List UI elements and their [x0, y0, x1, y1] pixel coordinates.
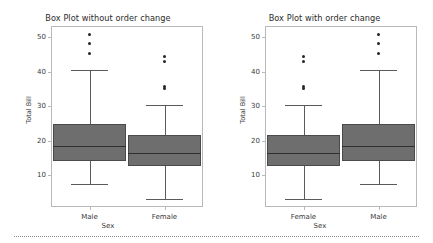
whisker: [379, 70, 380, 125]
x-axis-label: Sex: [0, 222, 216, 230]
x-tick-label-female: Female: [152, 213, 177, 221]
box-male: [53, 124, 126, 161]
median-line: [342, 146, 415, 147]
y-tick: [262, 106, 266, 107]
outlier-point: [302, 55, 305, 58]
y-tick-label: 20: [251, 137, 260, 145]
x-tick: [379, 206, 380, 210]
y-tick-label: 50: [251, 33, 260, 41]
outlier-point: [163, 87, 166, 90]
whisker-cap: [285, 199, 322, 200]
y-tick: [262, 72, 266, 73]
figure-canvas: Box Plot without order change Total Bill…: [0, 0, 433, 243]
whisker-cap: [285, 105, 322, 106]
plot-area: 1020304050FemaleMale: [266, 27, 416, 206]
panel-with-order-change: Box Plot with order change Total Bill Se…: [216, 0, 433, 243]
whisker: [90, 70, 91, 125]
whisker: [304, 166, 305, 199]
outlier-point: [163, 85, 166, 88]
median-line: [267, 153, 340, 154]
median-line: [53, 146, 126, 147]
x-tick-label-female: Female: [291, 213, 316, 221]
whisker: [165, 166, 166, 199]
panel-without-order-change: Box Plot without order change Total Bill…: [0, 0, 216, 243]
panel-title: Box Plot without order change: [0, 13, 216, 23]
box-male: [342, 124, 415, 161]
y-tick-label: 40: [37, 68, 46, 76]
whisker-cap: [146, 199, 183, 200]
y-tick: [262, 37, 266, 38]
x-tick-label-male: Male: [370, 213, 387, 221]
x-tick: [165, 206, 166, 210]
outlier-point: [88, 42, 91, 45]
y-tick: [48, 141, 52, 142]
whisker: [165, 105, 166, 135]
y-tick: [48, 106, 52, 107]
outlier-point: [88, 52, 91, 55]
y-tick-label: 30: [251, 102, 260, 110]
whisker: [379, 161, 380, 183]
outlier-point: [377, 52, 380, 55]
bottom-dotted-separator: [14, 236, 419, 237]
whisker-cap: [71, 184, 108, 185]
outlier-point: [377, 33, 380, 36]
y-tick-label: 20: [37, 137, 46, 145]
whisker: [90, 161, 91, 183]
outlier-point: [163, 60, 166, 63]
x-tick-label-male: Male: [81, 213, 98, 221]
outlier-point: [302, 87, 305, 90]
axes-frame: 1020304050MaleFemale: [51, 26, 203, 207]
y-tick: [262, 141, 266, 142]
y-tick: [262, 175, 266, 176]
x-tick: [304, 206, 305, 210]
box-female: [267, 135, 340, 165]
outlier-point: [88, 33, 91, 36]
outlier-point: [302, 60, 305, 63]
y-axis-label: Total Bill: [239, 96, 247, 124]
outlier-point: [377, 42, 380, 45]
axes-frame: 1020304050FemaleMale: [265, 26, 417, 207]
y-tick-label: 10: [37, 171, 46, 179]
y-tick-label: 10: [251, 171, 260, 179]
whisker-cap: [146, 105, 183, 106]
plot-area: 1020304050MaleFemale: [52, 27, 202, 206]
whisker-cap: [360, 184, 397, 185]
y-tick: [48, 175, 52, 176]
panel-title: Box Plot with order change: [216, 13, 433, 23]
whisker-cap: [360, 70, 397, 71]
y-tick-label: 30: [37, 102, 46, 110]
y-axis-label: Total Bill: [25, 96, 33, 124]
y-tick-label: 40: [251, 68, 260, 76]
outlier-point: [163, 55, 166, 58]
y-tick: [48, 72, 52, 73]
whisker-cap: [71, 70, 108, 71]
y-tick-label: 50: [37, 33, 46, 41]
x-tick: [90, 206, 91, 210]
x-axis-label: Sex: [212, 222, 428, 230]
whisker: [304, 105, 305, 135]
outlier-point: [302, 85, 305, 88]
median-line: [128, 153, 201, 154]
box-female: [128, 135, 201, 165]
y-tick: [48, 37, 52, 38]
